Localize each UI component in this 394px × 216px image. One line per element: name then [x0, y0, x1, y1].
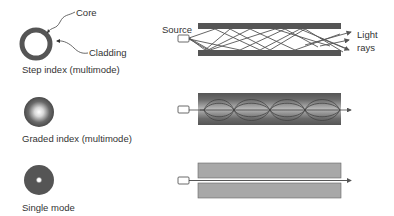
source-label: Source [162, 24, 192, 35]
cladding-label: Cladding [89, 47, 127, 58]
graded-index-cross-section [24, 97, 54, 127]
upper-cladding [198, 23, 341, 29]
light-label: Light [357, 29, 378, 40]
step-index-fiber [178, 23, 351, 56]
light-source-icon [178, 177, 189, 184]
rays-label: rays [357, 42, 375, 53]
upper-cladding [198, 163, 341, 178]
light-source-icon [178, 106, 189, 113]
core-pointer-line [47, 12, 75, 33]
graded-index-label: Graded index (multimode) [22, 133, 132, 144]
single-mode-core-icon [37, 178, 42, 183]
light-source-icon [178, 35, 189, 42]
lower-cladding [198, 183, 341, 198]
graded-index-fiber [178, 93, 351, 125]
core-icon [26, 34, 46, 54]
step-index-label: Step index (multimode) [22, 64, 120, 75]
single-mode-fiber [178, 163, 351, 198]
single-mode-cross-section [24, 165, 54, 195]
lower-cladding [198, 50, 341, 56]
core-label: Core [76, 7, 97, 18]
single-mode-label: Single mode [22, 202, 75, 213]
step-index-cross-section [22, 12, 88, 58]
fiber-diagram [0, 0, 394, 216]
cladding-pointer-line [57, 41, 88, 53]
light-rays [189, 29, 351, 52]
